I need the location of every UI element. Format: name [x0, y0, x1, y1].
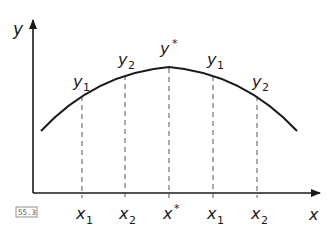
drop-lines	[82, 68, 257, 198]
top-label-y1-left: y 1	[72, 72, 90, 94]
top-label-y1-right: y 1	[206, 50, 224, 72]
bottom-label-x1-right: x 1	[206, 204, 224, 227]
bottom-label-x2-left: x 2	[118, 204, 136, 227]
svg-text:1: 1	[83, 81, 90, 94]
svg-text:2: 2	[262, 81, 269, 94]
bottom-label-x2-right: x 2	[250, 204, 268, 227]
svg-text:55.3: 55.3	[18, 208, 36, 217]
svg-text:y: y	[251, 72, 262, 91]
top-label-y2-left: y 2	[117, 50, 135, 72]
x-axis-label: x	[308, 205, 319, 224]
svg-text:*: *	[174, 202, 180, 215]
function-maximum-diagram: y x y 1 y 2 y * y 1 y 2 x 1 x 2 x * x 1 …	[0, 0, 330, 231]
svg-text:y: y	[72, 72, 83, 91]
y-axis-label: y	[12, 19, 24, 39]
svg-text:2: 2	[128, 59, 135, 72]
svg-text:y: y	[159, 39, 170, 58]
svg-text:2: 2	[261, 214, 268, 227]
svg-text:1: 1	[217, 59, 224, 72]
svg-text:1: 1	[217, 214, 224, 227]
figure-tag: 55.3	[16, 207, 37, 217]
top-label-ystar: y *	[159, 37, 178, 58]
top-label-y2-right: y 2	[251, 72, 269, 94]
svg-text:1: 1	[86, 214, 93, 227]
svg-text:x: x	[75, 204, 86, 223]
svg-text:x: x	[250, 204, 261, 223]
svg-text:y: y	[117, 50, 128, 69]
bottom-label-xstar: x *	[162, 202, 180, 223]
svg-text:x: x	[206, 204, 217, 223]
svg-text:2: 2	[129, 214, 136, 227]
svg-text:x: x	[118, 204, 129, 223]
svg-text:x: x	[162, 204, 173, 223]
bottom-label-x1-left: x 1	[75, 204, 93, 227]
svg-text:y: y	[206, 50, 217, 69]
svg-text:*: *	[172, 37, 178, 50]
